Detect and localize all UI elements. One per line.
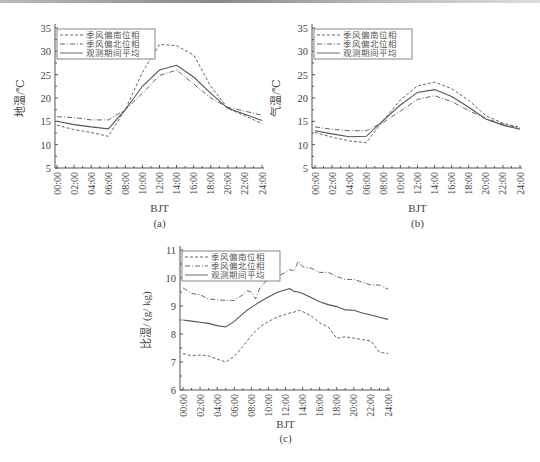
x-tick-label: 14:00 <box>429 172 440 195</box>
x-tick-label: 14:00 <box>297 394 308 417</box>
x-tick-label: 24:00 <box>383 394 394 417</box>
y-tick-label: 7 <box>171 357 176 368</box>
y-tick-label: 20 <box>41 93 52 104</box>
x-tick-label: 02:00 <box>327 172 338 195</box>
x-tick-label: 04:00 <box>86 172 97 195</box>
legend: 季风偏南位相季风偏北位相观测期间平均 <box>57 29 155 59</box>
x-tick-label: 20:00 <box>480 172 491 195</box>
y-axis-label: 比湿/ (g/ kg) <box>140 291 153 349</box>
series-line-2 <box>183 289 388 327</box>
series-line-2 <box>315 90 520 137</box>
x-tick-label: 06:00 <box>229 394 240 417</box>
x-tick-label: 12:00 <box>412 172 423 195</box>
x-tick-label: 04:00 <box>344 172 355 195</box>
y-tick-label: 10 <box>166 273 177 284</box>
y-tick-label: 8 <box>171 329 176 340</box>
x-tick-label: 24:00 <box>257 172 268 195</box>
x-tick-label: 06:00 <box>361 172 372 195</box>
y-tick-label: 15 <box>298 116 309 127</box>
x-tick-label: 18:00 <box>331 394 342 417</box>
legend: 季风偏南位相季风偏北位相观测期间平均 <box>182 251 280 281</box>
y-tick-label: 25 <box>41 70 52 81</box>
x-tick-label: 00:00 <box>178 394 189 417</box>
legend: 季风偏南位相季风偏北位相观测期间平均 <box>314 29 412 59</box>
series-line-0 <box>183 310 388 362</box>
x-tick-label: 00:00 <box>52 172 63 195</box>
panel-label: (a) <box>153 217 166 230</box>
x-tick-label: 08:00 <box>120 172 131 195</box>
x-tick-label: 16:00 <box>188 172 199 195</box>
legend-label: 观测期间平均 <box>211 270 265 280</box>
x-axis-label: BJT <box>150 202 169 214</box>
y-tick-label: 30 <box>41 46 52 57</box>
x-tick-label: 22:00 <box>365 394 376 417</box>
y-tick-label: 35 <box>41 23 52 34</box>
y-tick-label: 30 <box>298 46 309 57</box>
x-tick-label: 04:00 <box>212 394 223 417</box>
x-tick-label: 24:00 <box>515 172 526 195</box>
y-tick-label: 25 <box>298 70 309 81</box>
panel-label: (b) <box>411 217 424 230</box>
x-tick-label: 18:00 <box>463 172 474 195</box>
x-tick-label: 16:00 <box>446 172 457 195</box>
x-tick-label: 22:00 <box>497 172 508 195</box>
x-tick-label: 12:00 <box>280 394 291 417</box>
y-tick-label: 5 <box>303 163 308 174</box>
x-axis-label: BJT <box>408 202 427 214</box>
series-line-1 <box>57 70 262 120</box>
x-tick-label: 20:00 <box>222 172 233 195</box>
x-tick-label: 08:00 <box>378 172 389 195</box>
y-tick-label: 11 <box>166 245 176 256</box>
y-tick-label: 10 <box>41 140 52 151</box>
y-tick-label: 5 <box>46 163 51 174</box>
x-tick-label: 06:00 <box>103 172 114 195</box>
legend-label: 观测期间平均 <box>343 48 397 58</box>
x-tick-label: 02:00 <box>69 172 80 195</box>
y-tick-label: 35 <box>298 23 309 34</box>
x-tick-label: 10:00 <box>263 394 274 417</box>
series-line-0 <box>315 82 520 143</box>
x-axis-label: BJT <box>276 418 295 430</box>
x-tick-label: 14:00 <box>171 172 182 195</box>
chart-panel-b: 510152025303500:0002:0004:0006:0008:0010… <box>269 23 526 230</box>
x-tick-label: 18:00 <box>205 172 216 195</box>
x-tick-label: 22:00 <box>239 172 250 195</box>
y-tick-label: 10 <box>298 140 309 151</box>
legend-label: 观测期间平均 <box>86 48 140 58</box>
chart-panel-c: 6789101100:0002:0004:0006:0008:0010:0012… <box>140 245 394 445</box>
y-axis-label: 气温/℃ <box>269 79 282 116</box>
x-tick-label: 12:00 <box>154 172 165 195</box>
x-tick-label: 02:00 <box>195 394 206 417</box>
figure: 510152025303500:0002:0004:0006:0008:0010… <box>0 0 540 462</box>
y-axis-label: 地温/℃ <box>14 79 26 116</box>
panel-label: (c) <box>279 432 292 445</box>
x-tick-label: 00:00 <box>310 172 321 195</box>
x-tick-label: 20:00 <box>348 394 359 417</box>
y-tick-label: 9 <box>171 301 176 312</box>
x-tick-label: 10:00 <box>395 172 406 195</box>
x-tick-label: 10:00 <box>137 172 148 195</box>
x-tick-label: 16:00 <box>314 394 325 417</box>
x-tick-label: 08:00 <box>246 394 257 417</box>
y-tick-label: 6 <box>171 385 176 396</box>
y-tick-label: 15 <box>41 116 52 127</box>
series-line-1 <box>315 96 520 131</box>
chart-panel-a: 510152025303500:0002:0004:0006:0008:0010… <box>14 23 268 230</box>
y-tick-label: 20 <box>298 93 309 104</box>
